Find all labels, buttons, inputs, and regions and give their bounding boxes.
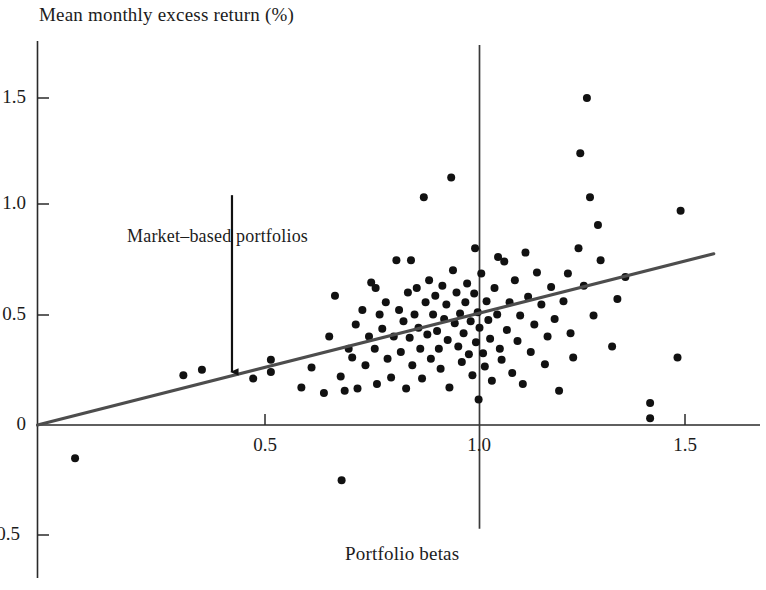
y-tick-label-1-5: 1.5 — [0, 86, 26, 108]
scatter-point — [541, 360, 549, 368]
scatter-point — [468, 371, 476, 379]
scatter-point — [519, 380, 527, 388]
x-tick-label-1-0: 1.0 — [449, 434, 509, 456]
scatter-point — [372, 284, 380, 292]
scatter-point — [267, 356, 275, 364]
scatter-point — [378, 325, 386, 333]
scatter-point — [341, 387, 349, 395]
scatter-point — [583, 94, 591, 102]
scatter-point — [371, 345, 379, 353]
scatter-point — [361, 361, 369, 369]
scatter-point — [331, 292, 339, 300]
scatter-point — [402, 385, 410, 393]
scatter-point — [470, 290, 478, 298]
y-tick-marks — [38, 98, 50, 535]
scatter-point — [590, 312, 598, 320]
scatter-point — [493, 311, 501, 319]
scatter-point — [422, 298, 430, 306]
scatter-point — [494, 253, 502, 261]
scatter-plot-canvas — [0, 0, 766, 590]
scatter-point — [407, 256, 415, 264]
scatter-point — [387, 373, 395, 381]
scatter-point — [444, 336, 452, 344]
scatter-point — [408, 361, 416, 369]
y-tick-label-0: 0 — [0, 413, 26, 435]
scatter-point — [267, 368, 275, 376]
scatter-point — [406, 334, 414, 342]
scatter-point — [198, 366, 206, 374]
scatter-point — [575, 244, 583, 252]
scatter-point — [483, 297, 491, 305]
scatter-point — [586, 193, 594, 201]
scatter-point — [555, 387, 563, 395]
scatter-point — [463, 280, 471, 288]
scatter-point — [423, 330, 431, 338]
scatter-point — [547, 283, 555, 291]
scatter-point — [511, 276, 519, 284]
scatter-point — [613, 295, 621, 303]
scatter-point — [564, 270, 572, 278]
scatter-point — [521, 249, 529, 257]
scatter-point — [527, 348, 535, 356]
scatter-point — [479, 349, 487, 357]
scatter-point — [352, 320, 360, 328]
scatter-point — [425, 276, 433, 284]
scatter-point — [454, 343, 462, 351]
scatter-point — [484, 316, 492, 324]
scatter-point — [338, 476, 346, 484]
security-market-line — [38, 254, 714, 425]
scatter-point — [308, 364, 316, 372]
scatter-point — [569, 354, 577, 362]
scatter-point — [467, 317, 475, 325]
scatter-point — [491, 284, 499, 292]
scatter-point — [458, 358, 466, 366]
y-axis-title: Mean monthly excess return (%) — [39, 4, 294, 26]
scatter-point — [392, 256, 400, 264]
scatter-point — [325, 333, 333, 341]
scatter-point — [477, 270, 485, 278]
scatter-point — [476, 324, 484, 332]
chart-figure: Mean monthly excess return (%) Portfolio… — [0, 0, 766, 590]
scatter-point — [461, 298, 469, 306]
scatter-point — [646, 414, 654, 422]
scatter-point — [71, 454, 79, 462]
scatter-point — [677, 207, 685, 215]
scatter-point — [449, 266, 457, 274]
scatter-point — [399, 317, 407, 325]
scatter-point — [435, 345, 443, 353]
scatter-point — [475, 396, 483, 404]
y-tick-label-1-0: 1.0 — [0, 192, 26, 214]
scatter-point — [516, 312, 524, 320]
scatter-point — [460, 329, 468, 337]
scatter-point — [320, 389, 328, 397]
scatter-point — [418, 375, 426, 383]
scatter-point — [674, 354, 682, 362]
scatter-point — [337, 372, 345, 380]
scatter-point — [411, 311, 419, 319]
scatter-point — [431, 292, 439, 300]
scatter-point — [453, 288, 461, 296]
scatter-point — [433, 327, 441, 335]
scatter-point — [416, 345, 424, 353]
scatter-point — [297, 383, 305, 391]
scatter-point — [488, 377, 496, 385]
scatter-point — [608, 343, 616, 351]
x-tick-marks — [265, 414, 685, 425]
scatter-point — [437, 365, 445, 373]
scatter-point — [427, 355, 435, 363]
scatter-point — [567, 329, 575, 337]
scatter-point — [445, 383, 453, 391]
scatter-point — [442, 301, 450, 309]
scatter-point — [508, 369, 516, 377]
scatter-point — [429, 311, 437, 319]
x-tick-label-0-5: 0.5 — [235, 434, 295, 456]
scatter-point — [395, 306, 403, 314]
scatter-point — [533, 269, 541, 277]
scatter-point — [354, 385, 362, 393]
scatter-point — [551, 315, 559, 323]
scatter-point — [530, 320, 538, 328]
scatter-point — [447, 173, 455, 181]
scatter-point — [471, 244, 479, 252]
scatter-point — [503, 326, 511, 334]
scatter-point — [559, 297, 567, 305]
